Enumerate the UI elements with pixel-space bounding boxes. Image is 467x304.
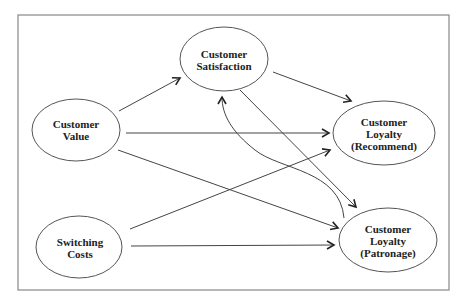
edge-switching-patronage (131, 245, 334, 246)
label-line: (Recommend) (351, 140, 417, 152)
label-line: Customer (360, 223, 415, 235)
label-line: Loyalty (351, 128, 417, 140)
edge-value-patronage (118, 150, 338, 228)
label-line: Customer (53, 118, 99, 130)
label-line: Loyalty (360, 235, 415, 247)
label-line: (Patronage) (360, 247, 415, 259)
label-line: Customer (351, 116, 417, 128)
label-customer-satisfaction: Customer Satisfaction (197, 48, 252, 72)
label-loyalty-patronage: Customer Loyalty (Patronage) (360, 223, 415, 259)
label-line: Customer (197, 48, 252, 60)
label-line: Satisfaction (197, 60, 252, 72)
edge-satisfaction-recommend (273, 72, 351, 101)
label-line: Value (53, 130, 99, 142)
edge-patronage-satisfaction-curve (222, 97, 344, 218)
label-line: Costs (57, 248, 103, 260)
label-loyalty-recommend: Customer Loyalty (Recommend) (351, 116, 417, 152)
label-switching-costs: Switching Costs (57, 236, 103, 260)
edge-value-satisfaction (119, 78, 180, 111)
label-customer-value: Customer Value (53, 118, 99, 142)
label-line: Switching (57, 236, 103, 248)
